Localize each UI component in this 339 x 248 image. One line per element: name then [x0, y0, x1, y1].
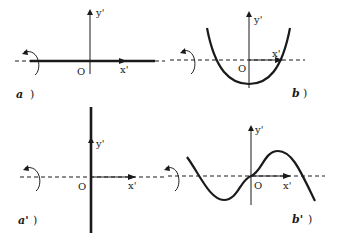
y-axis-label: y' — [95, 7, 104, 18]
x-axis-label: x' — [272, 48, 280, 59]
x-axis-label: x' — [283, 180, 291, 191]
origin-label: O — [78, 181, 86, 192]
svg-text:): ) — [308, 213, 312, 226]
y-axis-label: y' — [95, 138, 104, 149]
rotation-arrow-icon — [25, 168, 40, 191]
x-axis-label: x' — [120, 64, 128, 75]
panel-label: a' — [18, 214, 29, 227]
rotation-diagrams: y' O x' a ) y' O x' b ) y' O x' a' ) — [0, 0, 339, 248]
panel-a-prime: y' O x' a' ) — [18, 107, 165, 233]
origin-label: O — [238, 63, 246, 74]
rotation-arrow-icon — [166, 168, 179, 191]
panel-b: y' O x' b ) — [170, 14, 307, 100]
panel-label: b — [292, 87, 300, 100]
y-axis-label: y' — [254, 124, 263, 135]
rotation-arrow-icon — [24, 52, 39, 75]
panel-b-prime: y' O x' b' ) — [164, 124, 325, 226]
svg-text:): ) — [33, 214, 37, 227]
origin-label: O — [77, 66, 85, 77]
panel-label: a — [16, 88, 23, 101]
svg-text:): ) — [303, 87, 307, 100]
y-axis-label: y' — [253, 14, 262, 25]
x-axis-label: x' — [128, 180, 136, 191]
svg-text:): ) — [30, 88, 34, 101]
panel-label: b' — [292, 213, 303, 226]
origin-label: O — [254, 180, 262, 191]
panel-a: y' O x' a ) — [15, 7, 165, 101]
rotation-arrow-icon — [182, 51, 195, 74]
